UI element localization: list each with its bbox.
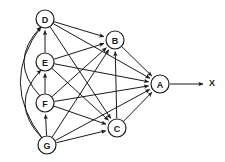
node-d[interactable]: D [36,10,54,28]
edge-b-to-a [122,47,152,76]
edge-d-to-b [54,22,104,37]
edge-g-to-f [46,115,47,136]
edge-f-to-a [54,86,148,102]
node-a[interactable]: A [151,75,169,93]
nodes-layer: ABCDEFG [36,10,169,154]
output-arrow-group: X [170,78,215,88]
edge-c-to-a [124,92,152,121]
edge-g-to-a [55,90,149,141]
node-label-c: C [114,124,121,134]
node-label-f: F [42,99,48,109]
node-label-d: D [42,15,49,25]
node-e[interactable]: E [36,53,54,71]
graph-diagram: X ABCDEFG [0,0,225,162]
node-b[interactable]: B [106,31,124,49]
edge-g-to-c [56,131,106,143]
node-f[interactable]: F [36,94,54,112]
edge-e-to-a [54,64,148,82]
graph-canvas: X ABCDEFG [0,0,225,162]
edges-layer [20,22,152,143]
node-label-a: A [157,80,164,90]
node-g[interactable]: G [38,136,56,154]
node-c[interactable]: C [108,119,126,137]
node-label-e: E [42,58,48,68]
output-label-x: X [209,78,215,88]
node-label-g: G [43,141,50,151]
edge-d-to-a [53,24,150,79]
node-label-b: B [112,36,119,46]
